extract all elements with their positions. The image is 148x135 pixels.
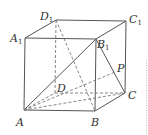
label-D1: D1	[39, 10, 53, 24]
edge-A1B1	[25, 38, 96, 39]
label-P: P	[116, 62, 125, 75]
edge-C1B1	[96, 21, 126, 39]
label-B1: B1	[96, 38, 110, 52]
edge-B1B	[95, 39, 96, 111]
label-B: B	[90, 116, 99, 129]
cube-diagram: D1 C1 A1 B1 P D C A B	[0, 0, 148, 135]
edge-DD1	[55, 20, 56, 93]
edge-AB	[24, 110, 95, 111]
label-D: D	[56, 82, 66, 95]
label-A1: A1	[9, 32, 22, 46]
solid-edges	[24, 20, 126, 111]
edge-D1B	[56, 20, 95, 111]
label-A: A	[15, 116, 24, 129]
label-C: C	[128, 89, 137, 102]
edge-AP	[24, 72, 115, 110]
label-C1: C1	[129, 13, 142, 27]
edge-D1C1	[56, 20, 126, 21]
edge-CC1	[125, 21, 126, 93]
edge-AA1	[24, 38, 25, 110]
